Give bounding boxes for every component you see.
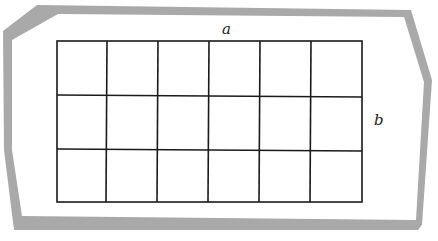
- grid-col-line: [259, 41, 260, 202]
- label-a: a: [222, 20, 231, 38]
- label-b: b: [374, 111, 384, 129]
- grid-col-line: [106, 41, 107, 202]
- grid-col-line: [208, 41, 209, 202]
- grid-col-line: [157, 41, 158, 202]
- diagram-canvas: [0, 0, 438, 241]
- grid-col-line: [310, 41, 311, 202]
